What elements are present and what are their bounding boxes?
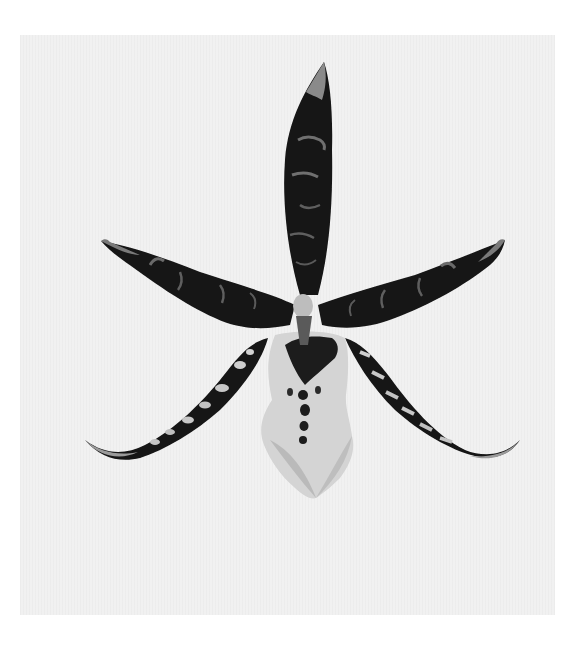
left-lateral-sepal (85, 338, 268, 460)
labellum (261, 332, 353, 499)
left-petal (101, 239, 295, 328)
orchid-illustration (0, 0, 584, 661)
dorsal-sepal (284, 62, 332, 295)
right-petal (318, 239, 505, 327)
right-lateral-sepal (345, 338, 520, 458)
